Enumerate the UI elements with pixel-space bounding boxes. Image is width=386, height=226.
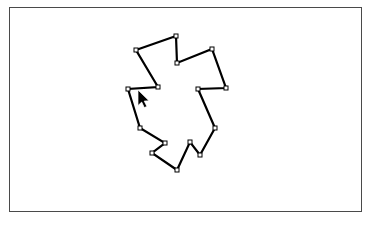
app-root xyxy=(0,0,386,226)
drawing-canvas[interactable] xyxy=(9,7,362,212)
